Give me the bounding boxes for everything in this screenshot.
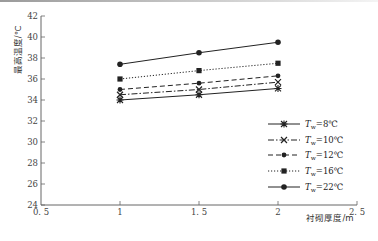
- marker-diamond: [118, 87, 123, 92]
- legend-label: Tw=12℃: [305, 150, 343, 161]
- y-tick-label: 28: [27, 158, 38, 168]
- y-tick-label: 42: [27, 11, 38, 21]
- y-tick-label: 32: [27, 116, 38, 126]
- legend: Tw=8℃Tw=10℃Tw=12℃Tw=16℃Tw=22℃: [268, 119, 343, 193]
- legend-label: Tw=8℃: [305, 119, 338, 130]
- marker-circle: [196, 50, 202, 56]
- x-tick-label: 0. 5: [33, 207, 49, 217]
- legend-item: Tw=22℃: [268, 182, 343, 193]
- marker-x: [275, 79, 281, 85]
- legend-item: Tw=10℃: [268, 135, 343, 146]
- y-tick-label: 34: [27, 95, 38, 105]
- marker-square: [275, 61, 280, 66]
- marker-asterisk: [275, 85, 282, 92]
- series-group: [117, 39, 282, 103]
- marker-circle: [275, 39, 281, 45]
- legend-item: Tw=12℃: [268, 150, 343, 161]
- line-chart: 242628303234363840420. 511. 522. 5 Tw=8℃…: [0, 0, 378, 241]
- legend-label: Tw=16℃: [305, 166, 343, 177]
- legend-item: Tw=8℃: [268, 119, 338, 130]
- x-axis-title: 衬砌厚度/m: [306, 213, 353, 223]
- y-tick-label: 26: [27, 179, 38, 189]
- marker-square: [281, 168, 286, 173]
- marker-asterisk: [281, 121, 288, 128]
- marker-circle: [117, 62, 123, 68]
- y-tick-label: 40: [27, 32, 38, 42]
- x-tick-label: 2: [275, 207, 280, 217]
- x-tick-label: 1: [117, 207, 122, 217]
- marker-diamond: [276, 73, 281, 78]
- marker-diamond: [282, 153, 287, 158]
- y-tick-label: 36: [27, 74, 38, 84]
- y-axis-title: 最高温度/℃: [13, 25, 23, 74]
- series-asterisk: [117, 85, 282, 104]
- y-tick-label: 30: [27, 137, 38, 147]
- series-square: [117, 61, 280, 82]
- series-circle: [117, 39, 281, 67]
- x-tick-label: 1. 5: [191, 207, 207, 217]
- marker-square: [196, 68, 201, 73]
- marker-square: [117, 76, 122, 81]
- legend-label: Tw=22℃: [305, 182, 343, 193]
- legend-item: Tw=16℃: [268, 166, 343, 177]
- y-tick-label: 38: [27, 53, 38, 63]
- marker-diamond: [197, 81, 202, 86]
- marker-circle: [281, 184, 287, 190]
- legend-label: Tw=10℃: [305, 135, 343, 146]
